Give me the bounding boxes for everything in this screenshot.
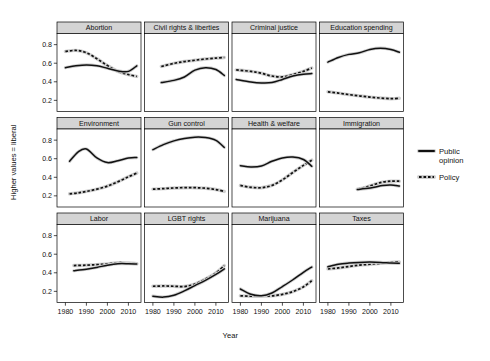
x-tick-label: 1990 [254, 308, 270, 316]
panel-environment: Environment0.20.40.60.8 [42, 118, 141, 208]
x-tick-label: 1980 [320, 308, 336, 316]
y-tick-label: 0.4 [42, 269, 52, 277]
y-tick-label: 0.8 [42, 137, 52, 145]
panel-title: Civil rights & liberties [154, 24, 220, 32]
panel-title: Labor [90, 215, 109, 223]
x-tick-label: 2010 [208, 308, 224, 316]
y-tick-label: 0.2 [42, 97, 52, 105]
panel-frame [232, 129, 316, 207]
panel-title: LGBT rights [168, 215, 206, 223]
panel-title: Education spending [330, 24, 392, 32]
y-tick-label: 0.2 [42, 192, 52, 200]
panel-lgbt-rights: LGBT rights1980199020002010 [145, 213, 229, 316]
panel-title: Gun control [168, 120, 205, 128]
panel-title: Taxes [352, 215, 371, 223]
y-tick-label: 0.6 [42, 60, 52, 68]
x-tick-label: 2000 [187, 308, 203, 316]
small-multiples-chart: Abortion0.20.40.60.8Civil rights & liber… [0, 0, 490, 361]
panel-immigration: Immigration [320, 118, 404, 208]
panel-frame [320, 129, 404, 207]
x-axis-title: Year [223, 331, 239, 340]
panel-title: Criminal justice [250, 24, 298, 32]
legend-public-opinion-label-line1: Public [439, 147, 460, 156]
y-tick-label: 0.2 [42, 288, 52, 296]
y-tick-label: 0.8 [42, 41, 52, 49]
x-tick-label: 1990 [341, 308, 357, 316]
panel-education-spending: Education spending [320, 22, 404, 112]
chart-svg: Abortion0.20.40.60.8Civil rights & liber… [0, 0, 490, 361]
panel-gun-control: Gun control [145, 118, 229, 208]
panel-title: Environment [79, 120, 119, 128]
panel-title: Marijuana [258, 215, 289, 223]
x-tick-label: 1980 [145, 308, 161, 316]
panel-health-welfare: Health & welfare [232, 118, 316, 208]
x-tick-label: 1990 [79, 308, 95, 316]
panel-criminal-justice: Criminal justice [232, 22, 316, 112]
legend-public-opinion-label-line2: opinion [439, 156, 464, 165]
x-tick-label: 1980 [233, 308, 249, 316]
x-tick-label: 2010 [383, 308, 399, 316]
x-tick-label: 2010 [121, 308, 137, 316]
y-tick-label: 0.6 [42, 155, 52, 163]
panel-title: Immigration [343, 120, 380, 128]
y-axis-title: Higher values = liberal [9, 124, 18, 200]
panel-labor: Labor0.20.40.60.81980199020002010 [42, 213, 141, 316]
panel-marijuana: Marijuana1980199020002010 [232, 213, 316, 316]
panel-abortion: Abortion0.20.40.60.8 [42, 22, 141, 112]
x-tick-label: 1990 [166, 308, 182, 316]
y-tick-label: 0.4 [42, 174, 52, 182]
panel-title: Health & welfare [248, 120, 300, 128]
panel-taxes: Taxes1980199020002010 [320, 213, 404, 316]
legend-policy-label: Policy [439, 173, 459, 182]
y-tick-label: 0.4 [42, 78, 52, 86]
x-tick-label: 1980 [58, 308, 74, 316]
x-tick-label: 2010 [296, 308, 312, 316]
panel-frame [145, 34, 229, 112]
x-tick-label: 2000 [100, 308, 116, 316]
x-tick-label: 2000 [362, 308, 378, 316]
panel-title: Abortion [86, 24, 112, 32]
panel-civil-rights-liberties: Civil rights & liberties [145, 22, 229, 112]
y-tick-label: 0.6 [42, 251, 52, 259]
x-tick-label: 2000 [275, 308, 291, 316]
y-tick-label: 0.8 [42, 232, 52, 240]
legend: PublicopinionPolicy [419, 147, 464, 182]
